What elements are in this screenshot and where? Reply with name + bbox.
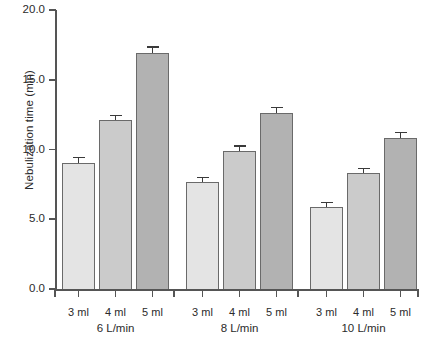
bar: [99, 120, 132, 289]
y-axis-tick: [49, 79, 56, 81]
error-bar-cap: [73, 157, 85, 158]
x-axis-category-label: 5 ml: [130, 306, 176, 318]
x-axis-boundary-tick: [417, 290, 419, 297]
bar-chart: Nebulization time (min) 0.05.010.015.020…: [0, 0, 426, 339]
x-axis-tick: [326, 290, 328, 297]
error-bar-cap: [358, 168, 370, 169]
error-bar-cap: [321, 202, 333, 203]
error-bar-cap: [234, 145, 246, 146]
error-bar-cap: [271, 107, 283, 108]
bar: [62, 163, 95, 289]
x-axis-group-label: 8 L/min: [175, 322, 305, 334]
bar: [223, 151, 256, 289]
x-axis-tick: [239, 290, 241, 297]
bar: [260, 113, 293, 289]
x-axis-tick: [202, 290, 204, 297]
error-bar-cap: [110, 115, 122, 116]
y-axis-tick: [49, 9, 56, 11]
x-axis-boundary-tick: [173, 290, 175, 297]
x-axis-tick: [152, 290, 154, 297]
x-axis-category-label: 5 ml: [378, 306, 424, 318]
y-axis-tick: [49, 149, 56, 151]
y-axis-tick-label: 10.0: [5, 143, 45, 155]
y-axis-tick-label: 5.0: [5, 212, 45, 224]
y-axis-tick-label: 15.0: [5, 73, 45, 85]
x-axis-group-label: 6 L/min: [51, 322, 181, 334]
x-axis-group-label: 10 L/min: [299, 322, 426, 334]
y-axis-tick-label: 0.0: [5, 282, 45, 294]
x-axis-boundary-tick: [54, 290, 56, 297]
y-axis-tick-label: 20.0: [5, 3, 45, 15]
x-axis-tick: [400, 290, 402, 297]
x-axis-tick: [276, 290, 278, 297]
error-bar-cap: [197, 177, 209, 178]
x-axis-boundary-tick: [297, 290, 299, 297]
bar: [136, 53, 169, 289]
error-bar-cap: [395, 132, 407, 133]
x-axis-line: [55, 289, 419, 291]
bar: [347, 173, 380, 289]
x-axis-tick: [363, 290, 365, 297]
bar: [310, 207, 343, 289]
bar: [384, 138, 417, 289]
x-axis-category-label: 5 ml: [254, 306, 300, 318]
y-axis-tick: [49, 218, 56, 220]
x-axis-tick: [78, 290, 80, 297]
y-axis-title: Nebulization time (min): [23, 35, 35, 225]
x-axis-tick: [115, 290, 117, 297]
error-bar-cap: [147, 46, 159, 47]
bar: [186, 182, 219, 289]
